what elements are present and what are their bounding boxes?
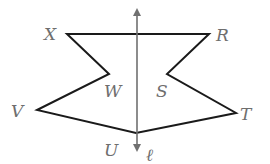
diagram-canvas	[0, 0, 270, 164]
label-v: V	[11, 103, 23, 120]
label-r: R	[216, 27, 229, 44]
label-w: W	[104, 83, 121, 100]
label-s: S	[156, 83, 168, 100]
label-line-l: ℓ	[146, 147, 153, 164]
label-t: T	[240, 106, 251, 123]
label-u: U	[104, 142, 118, 159]
reflection-diagram: X R W S V T U ℓ	[0, 0, 270, 164]
label-x: X	[44, 26, 56, 43]
